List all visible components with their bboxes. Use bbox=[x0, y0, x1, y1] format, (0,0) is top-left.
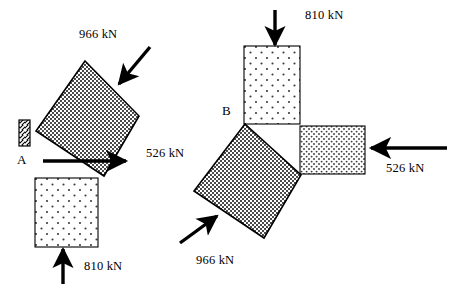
right-bearing-plate bbox=[300, 126, 365, 174]
top-bearing-plate bbox=[244, 46, 300, 124]
force-label-966-left: 966 kN bbox=[79, 27, 117, 42]
force-label-526-left: 526 kN bbox=[146, 146, 184, 161]
point-label-b: B bbox=[222, 103, 231, 119]
force-label-810-right: 810 kN bbox=[305, 8, 343, 23]
lower-bearing-plate bbox=[35, 178, 98, 247]
hatched-support bbox=[19, 120, 30, 146]
force-label-966-right: 966 kN bbox=[196, 253, 234, 268]
force-966-diagonal-arrow bbox=[119, 47, 150, 84]
force-label-526-right: 526 kN bbox=[386, 161, 424, 176]
force-label-810-left: 810 kN bbox=[84, 259, 122, 274]
force-diagram-figure: A 966 kN 526 kN 810 kN B 810 kN 526 kN 9… bbox=[0, 0, 456, 300]
left-diagram bbox=[19, 47, 150, 284]
force-966-diagonal-arrow bbox=[180, 216, 217, 243]
point-label-a: A bbox=[17, 152, 27, 168]
right-diagram bbox=[180, 10, 447, 243]
